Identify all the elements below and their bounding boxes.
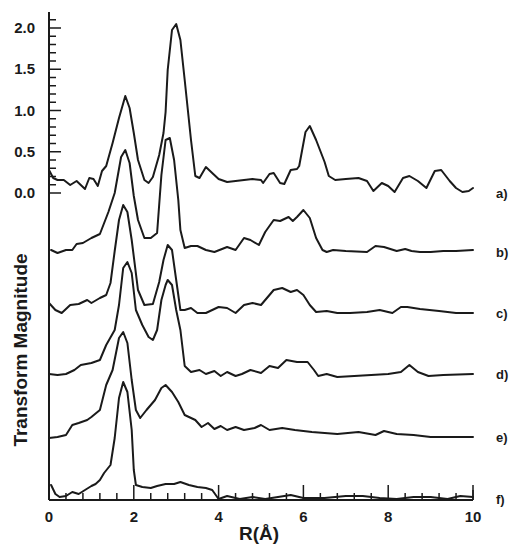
y-tick-label: 0.5 — [14, 143, 35, 160]
y-axis-title: Transform Magnitude — [10, 253, 31, 446]
y-tick-label: 1.0 — [14, 102, 35, 119]
y-tick-label: 1.5 — [14, 60, 35, 77]
curves — [49, 24, 473, 499]
curve-f — [51, 382, 473, 499]
curve-label: f) — [496, 492, 505, 507]
x-tick-label: 10 — [465, 508, 482, 525]
curve-label: e) — [496, 430, 508, 445]
curve-e — [49, 332, 473, 438]
labels: a)b)c)d)e)f) — [496, 186, 508, 507]
x-tick-label: 8 — [384, 508, 392, 525]
x-tick-label: 2 — [130, 508, 138, 525]
exafs-fourier-transform-chart: 0.00.51.01.52.00246810 a)b)c)d)e)f) R(Å)… — [0, 0, 519, 556]
y-tick-label: 2.0 — [14, 19, 35, 36]
curve-label: a) — [496, 186, 508, 201]
curve-label: c) — [496, 306, 508, 321]
x-tick-label: 6 — [299, 508, 307, 525]
axes: 0.00.51.01.52.00246810 — [14, 12, 481, 525]
curve-c — [49, 205, 473, 313]
curve-label: b) — [496, 245, 508, 260]
x-axis-title: R(Å) — [239, 523, 279, 544]
curve-a — [49, 24, 473, 192]
y-tick-label: 0.0 — [14, 184, 35, 201]
curve-d — [49, 262, 473, 377]
x-tick-label: 0 — [45, 508, 53, 525]
x-tick-label: 4 — [214, 508, 223, 525]
curve-label: d) — [496, 367, 508, 382]
curve-b — [51, 138, 473, 253]
